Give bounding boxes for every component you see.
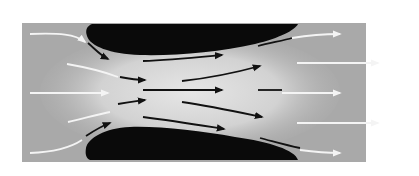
venturi-flow-diagram	[0, 0, 419, 176]
